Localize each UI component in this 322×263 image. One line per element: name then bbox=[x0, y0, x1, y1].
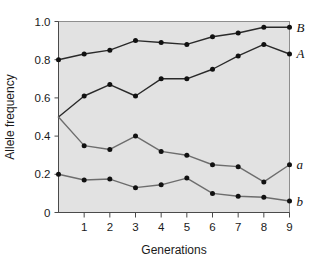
y-axis-tick-label: 0.4 bbox=[35, 130, 52, 142]
y-axis-tick-label: 0.8 bbox=[35, 54, 51, 66]
data-point bbox=[184, 76, 189, 81]
data-point bbox=[133, 134, 138, 139]
x-axis-tick-label: 7 bbox=[235, 221, 241, 233]
data-point bbox=[159, 182, 164, 187]
series-label-b: b bbox=[297, 194, 304, 209]
data-point bbox=[107, 177, 112, 182]
series-label-A: A bbox=[296, 46, 305, 61]
x-axis-tick-label: 6 bbox=[209, 221, 215, 233]
data-point bbox=[210, 191, 215, 196]
data-point bbox=[184, 176, 189, 181]
x-axis-tick-label: 4 bbox=[158, 221, 165, 233]
allele-frequency-chart: 00.20.40.60.81.0 123456789 BAab Generati… bbox=[0, 0, 322, 263]
data-point bbox=[210, 162, 215, 167]
data-point bbox=[210, 67, 215, 72]
data-point bbox=[159, 76, 164, 81]
x-axis-tick-label: 9 bbox=[286, 221, 292, 233]
data-point bbox=[236, 30, 241, 35]
data-point bbox=[184, 42, 189, 47]
plot-area-background bbox=[59, 22, 290, 213]
data-point bbox=[261, 195, 266, 200]
data-point bbox=[261, 179, 266, 184]
data-point bbox=[159, 149, 164, 154]
data-point bbox=[56, 172, 61, 177]
data-point bbox=[236, 53, 241, 58]
data-point bbox=[210, 34, 215, 39]
x-axis-title: Generations bbox=[141, 243, 206, 257]
y-axis-title: Allele frequency bbox=[3, 74, 17, 159]
data-point bbox=[287, 25, 292, 30]
data-point bbox=[184, 153, 189, 158]
data-point bbox=[236, 164, 241, 169]
y-axis-tick-label: 1.0 bbox=[35, 16, 51, 28]
data-point bbox=[287, 51, 292, 56]
data-point bbox=[82, 93, 87, 98]
data-point bbox=[56, 57, 61, 62]
x-axis-tick-label: 5 bbox=[184, 221, 190, 233]
data-point bbox=[107, 147, 112, 152]
data-point bbox=[287, 162, 292, 167]
data-point bbox=[107, 48, 112, 53]
data-point bbox=[261, 25, 266, 30]
y-axis-tick-label: 0 bbox=[44, 207, 50, 219]
x-axis-tick-label: 3 bbox=[132, 221, 138, 233]
y-axis-tick-label: 0.6 bbox=[35, 92, 51, 104]
x-axis-tick-label: 1 bbox=[81, 221, 87, 233]
data-point bbox=[107, 82, 112, 87]
data-point bbox=[82, 51, 87, 56]
series-label-B: B bbox=[297, 20, 305, 35]
x-axis-tick-label: 8 bbox=[261, 221, 267, 233]
x-axis-tick-label: 2 bbox=[107, 221, 113, 233]
data-point bbox=[133, 38, 138, 43]
data-point bbox=[82, 143, 87, 148]
data-point bbox=[261, 42, 266, 47]
data-point bbox=[133, 185, 138, 190]
data-point bbox=[133, 93, 138, 98]
data-point bbox=[236, 194, 241, 199]
data-point bbox=[159, 40, 164, 45]
y-axis-tick-label: 0.2 bbox=[35, 168, 51, 180]
chart-canvas: 00.20.40.60.81.0 123456789 BAab Generati… bbox=[0, 0, 322, 263]
data-point bbox=[82, 178, 87, 183]
data-point bbox=[287, 199, 292, 204]
series-label-a: a bbox=[297, 157, 304, 172]
